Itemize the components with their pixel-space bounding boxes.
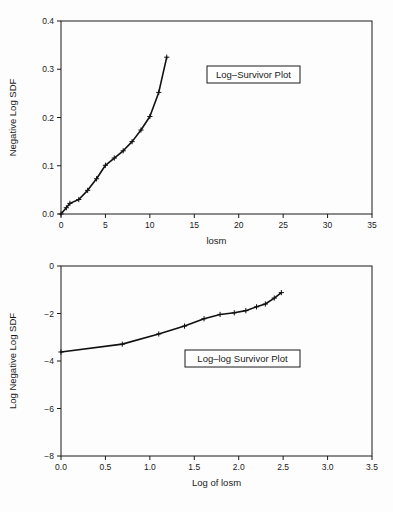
y-tick-label: 0.4 <box>42 16 54 26</box>
data-point-markers <box>58 55 169 217</box>
x-tick-label: 5 <box>103 220 108 230</box>
annotation-label: Log–log Survivor Plot <box>197 353 288 364</box>
x-axis-title: Log of losm <box>192 477 241 488</box>
y-tick-label: −2 <box>44 309 54 319</box>
x-tick-label: 20 <box>234 220 244 230</box>
y-tick-label: 0.1 <box>42 161 54 171</box>
annotation-label: Log–Survivor Plot <box>216 69 291 80</box>
x-tick-label: 1.0 <box>144 462 156 472</box>
x-tick-label: 0.0 <box>55 462 67 472</box>
figure-page: 051015202530350.00.10.20.30.4losmNegativ… <box>0 0 393 512</box>
x-tick-label: 35 <box>367 220 377 230</box>
plot-frame <box>61 21 372 214</box>
log-log-survivor-chart: 0.00.51.01.52.02.53.03.5−8−6−4−20Log of … <box>0 256 393 512</box>
x-tick-label: 0.5 <box>100 462 112 472</box>
y-tick-label: 0.2 <box>42 113 54 123</box>
x-axis-title: losm <box>206 235 226 246</box>
panel-log-survivor: 051015202530350.00.10.20.30.4losmNegativ… <box>0 0 393 256</box>
y-axis-title: Log Negative Log SDF <box>7 313 18 409</box>
panel-log-log-survivor: 0.00.51.01.52.02.53.03.5−8−6−4−20Log of … <box>0 256 393 512</box>
y-tick-label: 0.0 <box>42 209 54 219</box>
x-tick-label: 25 <box>278 220 288 230</box>
x-tick-label: 10 <box>145 220 155 230</box>
log-survivor-chart: 051015202530350.00.10.20.30.4losmNegativ… <box>0 0 393 256</box>
x-tick-label: 30 <box>323 220 333 230</box>
x-tick-label: 0 <box>59 220 64 230</box>
x-tick-label: 1.5 <box>188 462 200 472</box>
y-tick-label: 0.3 <box>42 64 54 74</box>
y-tick-label: −6 <box>44 404 54 414</box>
x-tick-label: 3.0 <box>322 462 334 472</box>
y-axis-title: Negative Log SDF <box>7 78 18 156</box>
x-tick-label: 3.5 <box>366 462 378 472</box>
y-tick-label: −8 <box>44 451 54 461</box>
data-series-line <box>61 57 167 214</box>
data-point-markers <box>58 290 284 355</box>
y-tick-label: −4 <box>44 356 54 366</box>
x-tick-label: 15 <box>190 220 200 230</box>
x-tick-label: 2.0 <box>233 462 245 472</box>
y-tick-label: 0 <box>49 261 54 271</box>
x-tick-label: 2.5 <box>277 462 289 472</box>
data-series-line <box>61 293 281 352</box>
